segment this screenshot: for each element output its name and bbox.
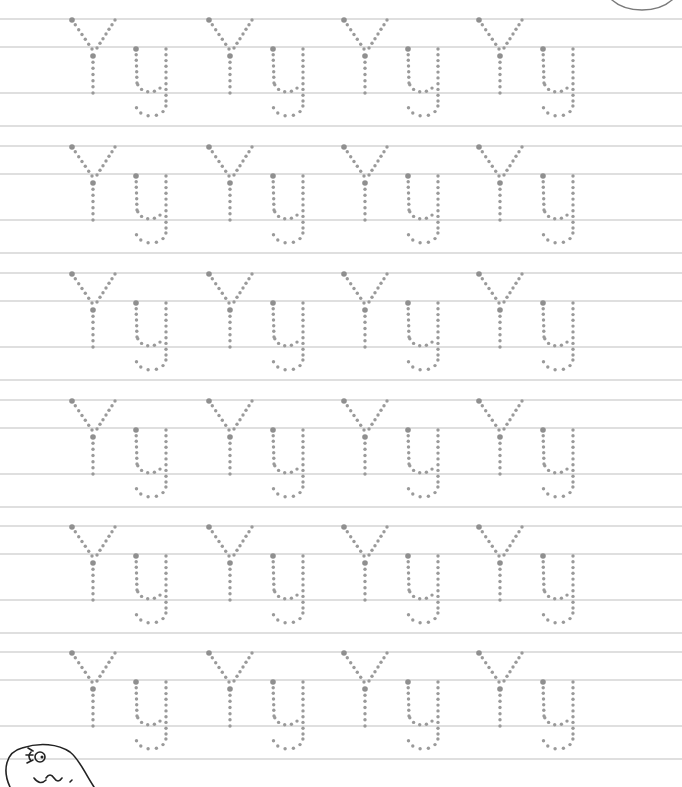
letter-pair-Yy <box>476 271 575 371</box>
letter-pair-Yy <box>206 271 304 371</box>
letter-pair-Yy <box>206 650 304 750</box>
letter-pair-Yy <box>69 524 168 624</box>
letter-pair-Yy <box>69 17 168 117</box>
letter-pair-Yy <box>69 144 168 244</box>
letter-pair-Yy <box>69 398 168 498</box>
letter-pair-Yy <box>341 271 439 371</box>
letter-pair-Yy <box>476 524 575 624</box>
letter-pair-Yy <box>341 524 439 624</box>
letter-pair-Yy <box>341 398 439 498</box>
letter-pair-Yy <box>206 17 304 117</box>
top-right-circle-icon <box>608 0 676 10</box>
fish-mascot-illustration-icon <box>6 745 94 787</box>
letter-pair-Yy <box>69 650 168 750</box>
letter-pair-Yy <box>206 144 304 244</box>
guide-lines <box>0 19 682 759</box>
dotted-letters <box>69 17 575 750</box>
letter-pair-Yy <box>476 144 575 244</box>
letter-pair-Yy <box>476 398 575 498</box>
letter-pair-Yy <box>69 271 168 371</box>
letter-pair-Yy <box>341 650 439 750</box>
letter-pair-Yy <box>476 17 575 117</box>
letter-pair-Yy <box>206 398 304 498</box>
letter-pair-Yy <box>341 17 439 117</box>
letter-pair-Yy <box>476 650 575 750</box>
letter-pair-Yy <box>341 144 439 244</box>
letter-pair-Yy <box>206 524 304 624</box>
worksheet-canvas <box>0 0 682 787</box>
